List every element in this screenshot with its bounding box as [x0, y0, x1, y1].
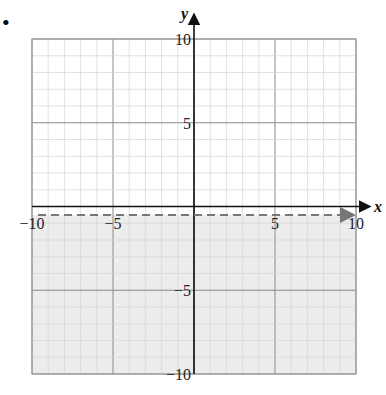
x-axis-label: x [373, 198, 382, 215]
problem-bullet: • [2, 12, 10, 34]
x-tick-label: −5 [104, 215, 121, 232]
y-tick-label: −5 [174, 282, 191, 299]
coordinate-plane: xy−10−5510105−5−10 [0, 0, 386, 395]
y-tick-label: 5 [183, 115, 191, 132]
x-tick-label: 10 [348, 215, 364, 232]
y-tick-label: 10 [175, 31, 191, 48]
y-axis-label: y [179, 5, 189, 23]
x-tick-label: −10 [19, 215, 44, 232]
x-tick-label: 5 [271, 215, 279, 232]
y-tick-label: −10 [166, 366, 191, 383]
